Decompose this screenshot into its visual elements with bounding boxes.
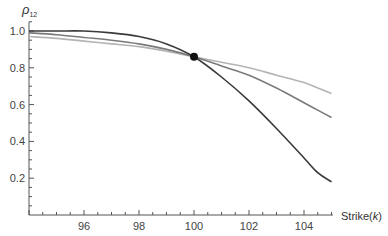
x-tick-label: 100: [185, 220, 203, 232]
correlation-chart: 96981001021040.20.40.60.81.0 ρ12 Strike(…: [0, 0, 388, 236]
x-axis-title: Strike(k): [341, 210, 382, 222]
series-lines: [29, 31, 332, 182]
y-tick-label: 0.4: [10, 135, 25, 147]
y-axis-title: ρ12: [21, 2, 37, 18]
series-line-light: [29, 37, 332, 94]
axes: 96981001021040.20.40.60.81.0: [10, 22, 333, 232]
y-tick-label: 0.2: [10, 172, 25, 184]
y-tick-label: 1.0: [10, 25, 25, 37]
x-tick-label: 98: [133, 220, 145, 232]
intersection-point: [190, 53, 198, 61]
x-tick-label: 102: [240, 220, 258, 232]
y-tick-label: 0.6: [10, 99, 25, 111]
x-tick-label: 104: [295, 220, 313, 232]
x-tick-label: 96: [78, 220, 90, 232]
annotations: [190, 53, 198, 61]
y-tick-label: 0.8: [10, 62, 25, 74]
series-line-medium: [29, 33, 332, 118]
